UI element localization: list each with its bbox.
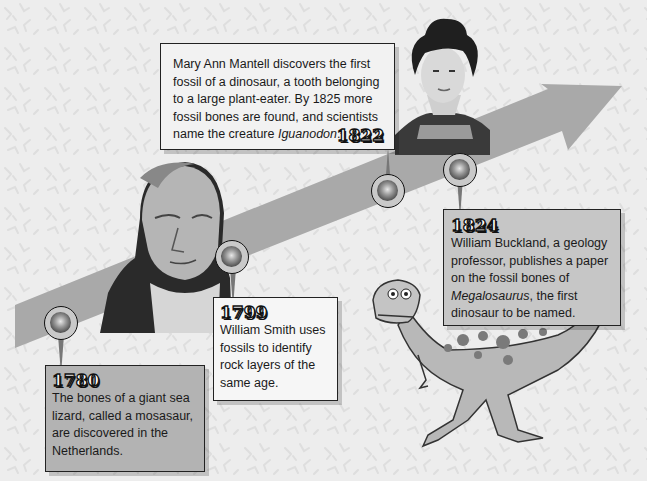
event-box-1824: 1824 William Buckland, a geology profess… [443,209,621,326]
description-text: William Buckland, a geology professor, p… [451,236,608,285]
timeline-pin-1780 [44,306,78,340]
event-year: 1780 [52,370,198,390]
portrait-mary-ann-mantell [395,15,490,155]
event-year: 1822 [337,125,384,145]
species-name: Megalosaurus [451,289,530,303]
event-description: The bones of a giant sea lizard, called … [52,390,198,460]
event-description: William Smith uses fossils to identify r… [220,322,331,392]
event-box-1799: 1799 William Smith uses fossils to ident… [213,297,338,401]
timeline-pin-1822 [371,174,405,208]
event-year: 1824 [451,215,613,235]
timeline-pin-1799 [215,240,249,274]
timeline-pin-1824 [443,153,477,187]
event-year: 1799 [220,302,331,322]
event-box-1822: Mary Ann Mantell discovers the first fos… [160,43,395,150]
event-box-1780: 1780 The bones of a giant sea lizard, ca… [45,365,205,472]
event-description: William Buckland, a geology professor, p… [451,235,613,323]
species-name: Iguanodon [278,127,337,141]
